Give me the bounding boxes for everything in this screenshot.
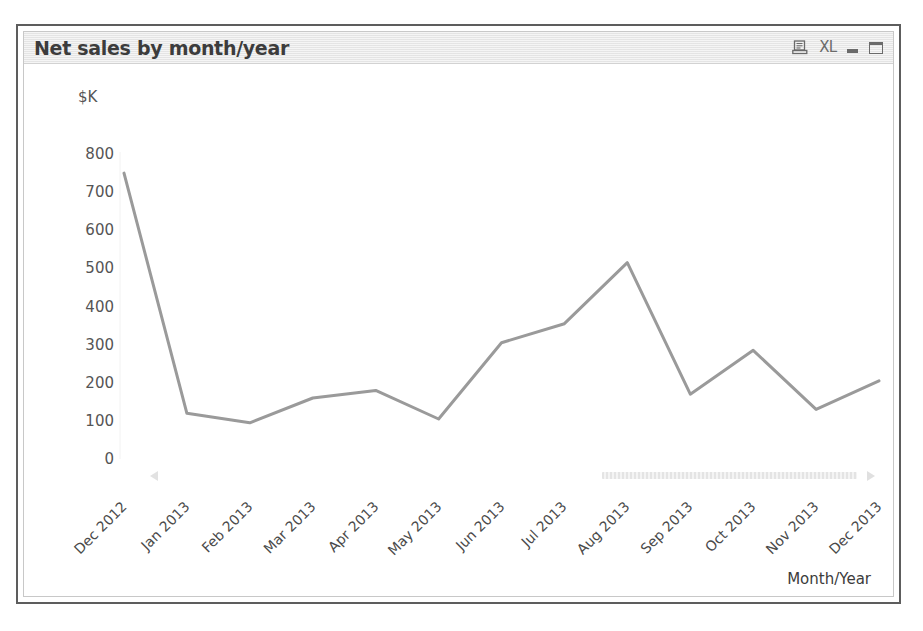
x-axis-title: Month/Year bbox=[787, 570, 871, 588]
net-sales-line bbox=[124, 173, 879, 423]
scroll-left-arrow-icon[interactable] bbox=[150, 471, 158, 481]
page-title: Net sales by month/year bbox=[34, 37, 289, 59]
minimize-button[interactable] bbox=[847, 49, 858, 53]
maximize-button[interactable] bbox=[869, 42, 883, 54]
export-report-icon[interactable] bbox=[792, 40, 808, 55]
title-bar-controls: XL bbox=[792, 40, 883, 55]
chart-window: Net sales by month/year XL bbox=[16, 24, 901, 604]
chart-scrollbar[interactable] bbox=[124, 469, 875, 483]
title-bar: Net sales by month/year XL bbox=[24, 32, 893, 64]
window-inner-panel: Net sales by month/year XL bbox=[23, 31, 894, 597]
scroll-right-arrow-icon[interactable] bbox=[867, 471, 875, 481]
line-series-svg bbox=[24, 64, 899, 610]
export-excel-icon[interactable]: XL bbox=[819, 40, 836, 55]
scrollbar-thumb[interactable] bbox=[602, 472, 857, 479]
chart-plot-area: $K 0100200300400500600700800 Dec 2012Jan… bbox=[24, 64, 893, 596]
